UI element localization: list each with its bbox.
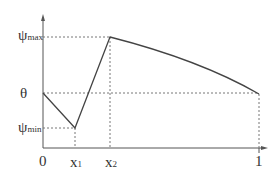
label-x2: x2 [105, 154, 117, 170]
label-x1: x1 [70, 154, 82, 170]
label-one: 1 [255, 154, 263, 169]
label-psi-max: ψmax [18, 27, 43, 43]
label-theta: θ [20, 86, 27, 101]
x-axis-arrow-icon [261, 146, 268, 150]
y-axis-arrow-icon [41, 14, 45, 21]
label-origin: 0 [39, 154, 47, 169]
function-curve [43, 37, 259, 128]
guide-lines [43, 37, 259, 148]
label-psi-min: ψmin [18, 119, 41, 135]
